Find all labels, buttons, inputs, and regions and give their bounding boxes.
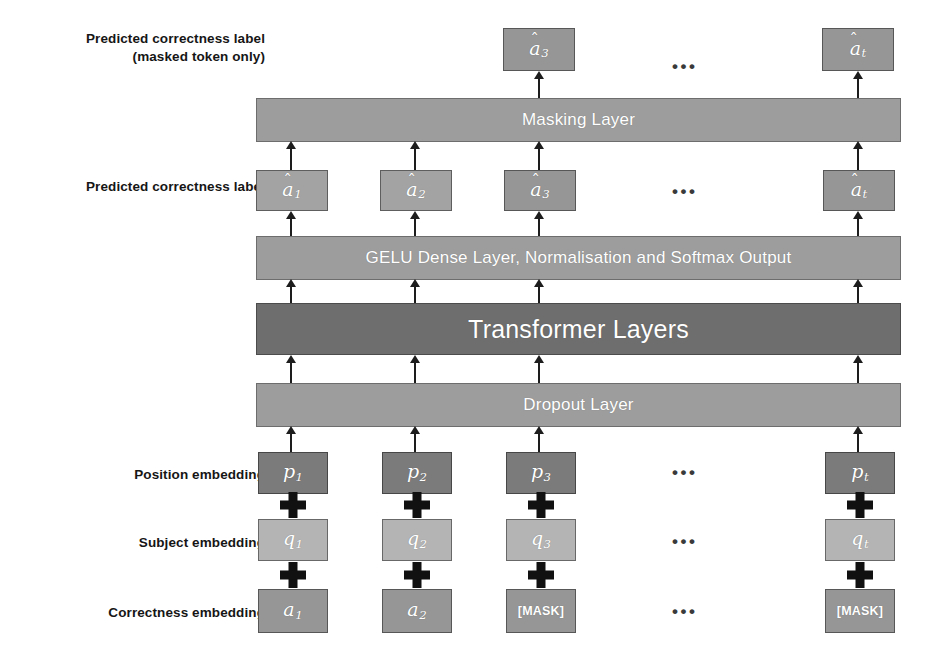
architecture-diagram: Predicted correctness label (masked toke…: [0, 0, 939, 668]
plus-icon-q1-a1: [280, 562, 306, 588]
token-label: ̂a3: [530, 180, 549, 201]
connector-ahat3-to-masking: [538, 148, 540, 170]
token-label: q2: [407, 529, 427, 550]
arrow-head-ahat2-to-masking: [410, 141, 420, 149]
connector-gelu-to-ahatt: [857, 218, 859, 238]
label-predicted-correctness-masked: Predicted correctness label (masked toke…: [40, 30, 265, 66]
plus-icon-qt-maskt: [847, 562, 873, 588]
ellipsis-subject-row: •••: [672, 533, 697, 550]
token-label: ̂at: [851, 180, 868, 201]
dropout-layer-label: Dropout Layer: [523, 395, 633, 415]
token-label: ̂a3: [529, 39, 548, 60]
connector-pt-to-dropout: [857, 433, 859, 453]
token-box-p1: p1: [258, 452, 328, 494]
ellipsis-position-row: •••: [672, 464, 697, 481]
ellipsis-output-masked-row: •••: [672, 58, 697, 75]
plus-icon-p1-q1: [280, 492, 306, 518]
connector-ahatt-to-masking: [857, 148, 859, 170]
arrow-head-dropout-to-transformer-1: [286, 355, 296, 363]
arrow-head-gelu-to-ahat2: [410, 211, 420, 219]
token-label: p2: [407, 462, 427, 483]
token-label: q1: [283, 529, 303, 550]
connector-dropout-to-transformer-1: [290, 362, 292, 383]
connector-gelu-to-ahat2: [414, 218, 416, 238]
token-label: q3: [531, 529, 551, 550]
arrow-head-dropout-to-transformer-3: [534, 355, 544, 363]
gelu-dense-layer-bar: GELU Dense Layer, Normalisation and Soft…: [256, 236, 901, 280]
arrow-head-ahatt-to-masking: [853, 141, 863, 149]
connector-dropout-to-transformer-t: [857, 362, 859, 383]
token-box-ahat1: ̂a1: [256, 170, 328, 211]
arrow-head-dropout-to-transformer-2: [410, 355, 420, 363]
token-box-a2: a2: [382, 589, 452, 633]
label-predicted-correctness: Predicted correctness label: [40, 178, 265, 196]
token-box-p2: p2: [382, 452, 452, 494]
transformer-layers-label: Transformer Layers: [468, 315, 689, 344]
token-label: p1: [283, 462, 303, 483]
token-box-ahat3-masked: ̂a3: [503, 28, 575, 71]
arrow-head-p2-to-dropout: [410, 426, 420, 434]
arrow-head-pt-to-dropout: [853, 426, 863, 434]
connector-dropout-to-transformer-2: [414, 362, 416, 383]
token-box-q3: q3: [506, 519, 576, 561]
arrow-head-p3-to-dropout: [534, 426, 544, 434]
token-label: ̂a1: [282, 180, 301, 201]
arrow-head-gelu-to-ahat3: [534, 211, 544, 219]
ellipsis-output-row: •••: [672, 183, 697, 200]
arrow-head-masking-to-ahatt: [853, 71, 863, 79]
token-box-qt: qt: [825, 519, 895, 561]
connector-gelu-to-ahat1: [290, 218, 292, 238]
arrow-head-ahat3-to-masking: [534, 141, 544, 149]
plus-icon-p3-q3: [528, 492, 554, 518]
token-box-maskt: [MASK]: [825, 589, 895, 633]
connector-p3-to-dropout: [538, 433, 540, 453]
gelu-dense-layer-label: GELU Dense Layer, Normalisation and Soft…: [366, 248, 792, 268]
token-box-ahat3: ̂a3: [504, 170, 576, 211]
arrow-head-ahat1-to-masking: [286, 141, 296, 149]
token-label: ̂at: [850, 39, 867, 60]
token-box-mask3: [MASK]: [506, 589, 576, 633]
plus-icon-p2-q2: [404, 492, 430, 518]
arrow-head-transformer-to-gelu-t: [853, 279, 863, 287]
mask-token-label: [MASK]: [837, 604, 883, 618]
token-box-q2: q2: [382, 519, 452, 561]
arrow-head-gelu-to-ahatt: [853, 211, 863, 219]
arrow-head-transformer-to-gelu-2: [410, 279, 420, 287]
ellipsis-correctness-row: •••: [672, 603, 697, 620]
token-label: p3: [531, 462, 551, 483]
token-label: a2: [407, 600, 426, 621]
token-box-p3: p3: [506, 452, 576, 494]
token-label: pt: [851, 462, 868, 483]
arrow-head-masking-to-ahat3: [534, 71, 544, 79]
token-box-ahatt: ̂at: [823, 170, 895, 211]
arrow-head-p1-to-dropout: [286, 426, 296, 434]
token-box-q1: q1: [258, 519, 328, 561]
arrow-head-transformer-to-gelu-3: [534, 279, 544, 287]
token-box-a1: a1: [258, 589, 328, 633]
masking-layer-label: Masking Layer: [522, 110, 635, 130]
mask-token-label: [MASK]: [518, 604, 564, 618]
label-position-embedding: Position embedding: [40, 466, 265, 484]
label-correctness-embedding: Correctness embedding: [40, 604, 265, 622]
plus-icon-q3-mask3: [528, 562, 554, 588]
connector-ahat2-to-masking: [414, 148, 416, 170]
arrow-head-transformer-to-gelu-1: [286, 279, 296, 287]
connector-ahat1-to-masking: [290, 148, 292, 170]
transformer-layers-bar: Transformer Layers: [256, 303, 901, 355]
masking-layer-bar: Masking Layer: [256, 98, 901, 142]
token-label: ̂a2: [406, 180, 425, 201]
label-subject-embedding: Subject embedding: [40, 534, 265, 552]
connector-p2-to-dropout: [414, 433, 416, 453]
token-label: a1: [283, 600, 302, 621]
connector-gelu-to-ahat3: [538, 218, 540, 238]
connector-p1-to-dropout: [290, 433, 292, 453]
arrow-head-gelu-to-ahat1: [286, 211, 296, 219]
plus-icon-pt-qt: [847, 492, 873, 518]
arrow-head-dropout-to-transformer-t: [853, 355, 863, 363]
token-box-ahatt-masked: ̂at: [822, 28, 894, 71]
token-box-ahat2: ̂a2: [380, 170, 452, 211]
plus-icon-q2-a2: [404, 562, 430, 588]
connector-masking-to-ahat3: [538, 78, 540, 98]
token-label: qt: [851, 529, 868, 550]
connector-masking-to-ahatt: [857, 78, 859, 98]
